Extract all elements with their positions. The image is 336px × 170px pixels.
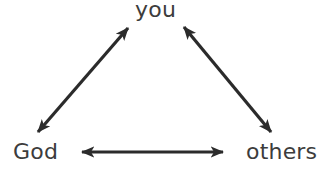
node-others-label: others xyxy=(246,141,317,163)
arrow-god-you xyxy=(38,28,128,132)
relationship-triangle-diagram: you God others xyxy=(0,0,336,170)
node-you-label: you xyxy=(135,0,176,21)
arrow-you-others xyxy=(184,27,271,132)
node-god-label: God xyxy=(13,141,58,163)
